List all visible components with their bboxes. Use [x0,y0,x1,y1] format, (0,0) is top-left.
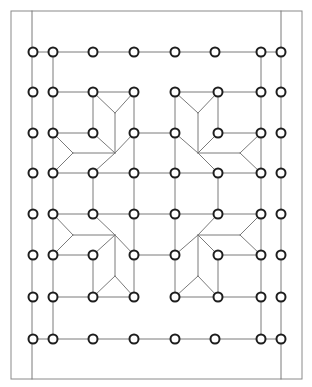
board-point-circle [49,48,58,57]
board-point-circle [277,129,286,138]
board-point-circle [130,251,139,260]
board-point-circle [257,335,266,344]
board-point-circle [49,129,58,138]
board-point-circle [171,88,180,97]
board-point-circle [171,48,180,57]
board-point-circle [130,335,139,344]
board-point-circle [29,293,38,302]
outer-frame [11,11,302,379]
board-point-circle [49,88,58,97]
board-point-circle [171,169,180,178]
board-point-circle [29,169,38,178]
board-point-circle [257,48,266,57]
board-point-circle [277,169,286,178]
board-point-circle [214,129,223,138]
board-point-circle [130,210,139,219]
board-point-circle [277,251,286,260]
board-point-circle [214,210,223,219]
board-point-circle [257,129,266,138]
board-point-circle [89,48,98,57]
board-point-circle [89,169,98,178]
board-point-circle [29,251,38,260]
board-point-circle [49,169,58,178]
board-point-circle [29,335,38,344]
board-point-circle [277,210,286,219]
board-point-circle [171,335,180,344]
board-point-circle [257,293,266,302]
board-point-circle [257,88,266,97]
board-point-circle [29,48,38,57]
board-point-circle [214,88,223,97]
board-point-circle [171,251,180,260]
board-point-circle [130,293,139,302]
board-point-circle [89,88,98,97]
connection-lines [32,11,281,379]
board-point-circle [257,210,266,219]
board-point-circle [171,210,180,219]
board-point-circle [29,88,38,97]
board-point-circle [49,335,58,344]
board-point-circle [257,169,266,178]
board-point-circle [130,88,139,97]
board-point-circle [130,48,139,57]
board-point-circle [257,251,266,260]
board-diagram [0,0,312,387]
board-point-circle [277,335,286,344]
board-point-circle [29,129,38,138]
board-point-circle [277,48,286,57]
board-point-circle [89,335,98,344]
board-point-circle [214,293,223,302]
board-point-circle [89,293,98,302]
board-point-circle [211,48,220,57]
board-point-circle [49,251,58,260]
board-point-circle [89,251,98,260]
board-point-circle [49,210,58,219]
board-point-circle [171,129,180,138]
board-point-circle [277,88,286,97]
board-point-circle [49,293,58,302]
board-point-circle [214,251,223,260]
board-point-circle [130,169,139,178]
board-point-circle [214,169,223,178]
board-point-circle [171,293,180,302]
board-point-circle [277,293,286,302]
board-point-circle [89,210,98,219]
board-point-circle [29,210,38,219]
board-point-circle [130,129,139,138]
board-point-circle [211,335,220,344]
board-point-circle [89,129,98,138]
